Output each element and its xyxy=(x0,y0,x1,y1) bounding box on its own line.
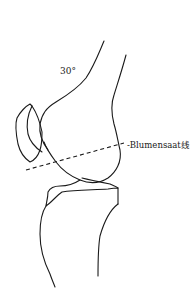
knee-diagram: 30° -Blumensaat线 xyxy=(0,0,196,288)
blumensaat-line-label: -Blumensaat线 xyxy=(127,138,190,150)
angle-label: 30° xyxy=(60,66,76,76)
femur-posterior-outline xyxy=(44,55,126,182)
tibial-plateau-top xyxy=(82,178,118,188)
femur-anterior-outline xyxy=(40,41,104,150)
tibia-anterior-outline xyxy=(40,206,55,287)
tibia-posterior-outline xyxy=(98,204,118,276)
